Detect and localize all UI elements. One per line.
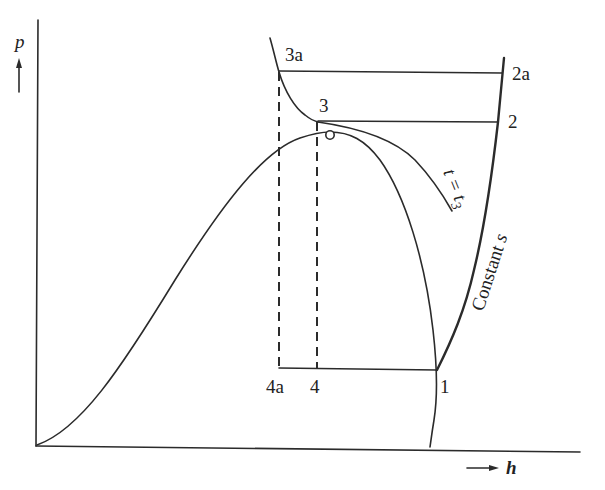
point-label-3: 3	[319, 95, 329, 116]
point-label-1: 1	[440, 376, 450, 397]
isotherm-label: t = t3	[436, 166, 474, 212]
point-label-3a: 3a	[285, 44, 304, 65]
point-label-2: 2	[508, 111, 518, 132]
saturation-dome-curve	[37, 132, 437, 447]
x-axis	[36, 446, 580, 452]
low-pressure-line-4a-1	[279, 368, 437, 370]
p-h-diagram: p h 3a 2a 3 2 4a 4 1 t = t3 Constant s	[0, 0, 605, 490]
point-label-4: 4	[310, 376, 320, 397]
y-axis-label: p	[13, 31, 25, 52]
high-pressure-line-3-2	[318, 121, 498, 122]
y-axis-arrow-icon	[16, 58, 22, 92]
critical-point-marker	[326, 131, 334, 139]
point-label-2a: 2a	[512, 63, 531, 84]
x-axis-arrow-icon	[467, 465, 499, 471]
x-axis-label: h	[506, 457, 517, 478]
constant-entropy-curve	[437, 58, 504, 370]
y-axis	[36, 20, 38, 446]
high-pressure-line-3a-2a	[279, 71, 502, 73]
point-label-4a: 4a	[266, 376, 285, 397]
svg-text:t = t3: t = t3	[436, 166, 474, 212]
